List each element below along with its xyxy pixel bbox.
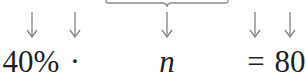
arrow-down-icon-times bbox=[70, 12, 80, 37]
arrow-down-icon-equals bbox=[250, 12, 260, 37]
arrow-down-icon-variable bbox=[162, 12, 172, 37]
multiply-symbol: · bbox=[70, 46, 80, 77]
arrow-down-icon-percent bbox=[27, 12, 37, 37]
equals-symbol: = bbox=[247, 46, 264, 77]
brace-icon bbox=[106, 0, 228, 7]
equation-diagram: 40% · n = 80 bbox=[0, 0, 305, 82]
percent-term: 40% bbox=[3, 46, 60, 77]
variable-term: n bbox=[159, 46, 175, 77]
result-term: 80 bbox=[275, 46, 306, 77]
arrow-down-icon-result bbox=[285, 12, 295, 37]
